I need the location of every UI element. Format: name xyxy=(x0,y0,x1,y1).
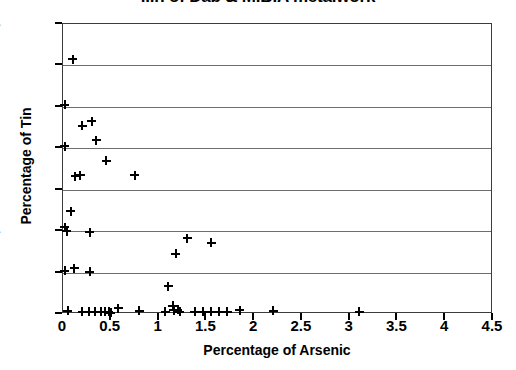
data-point xyxy=(62,227,71,236)
data-point xyxy=(183,234,192,243)
data-point xyxy=(92,136,101,145)
data-point xyxy=(269,306,278,315)
x-tick-label: 3 xyxy=(326,318,372,334)
data-point xyxy=(175,307,184,316)
x-tick-mark xyxy=(491,313,493,320)
chart-title: ...n of Dab & M.B.A metalwork xyxy=(0,0,516,7)
gridline xyxy=(63,65,491,66)
data-point xyxy=(85,228,94,237)
data-point xyxy=(60,142,69,151)
data-point xyxy=(60,100,69,109)
x-tick-mark xyxy=(443,313,445,320)
x-tick-mark xyxy=(395,313,397,320)
x-tick-mark xyxy=(157,313,159,320)
data-point xyxy=(85,267,94,276)
x-tick-label: 1 xyxy=(135,318,181,334)
gridline xyxy=(63,231,491,232)
y-tick-mark xyxy=(55,188,62,190)
data-point xyxy=(63,306,72,315)
x-tick-label: 4 xyxy=(421,318,467,334)
y-tick-mark xyxy=(55,63,62,65)
data-point xyxy=(223,307,232,316)
gridline xyxy=(63,107,491,108)
gridline xyxy=(63,273,491,274)
x-tick-label: 2.5 xyxy=(278,318,324,334)
data-point xyxy=(235,306,244,315)
data-point xyxy=(60,266,69,275)
gridline xyxy=(63,148,491,149)
data-point xyxy=(87,117,96,126)
data-point xyxy=(76,171,85,180)
x-axis-title: Percentage of Arsenic xyxy=(62,341,492,359)
data-point xyxy=(164,282,173,291)
x-tick-mark xyxy=(109,313,111,320)
data-point xyxy=(130,171,139,180)
x-tick-mark xyxy=(204,313,206,320)
data-point xyxy=(355,307,364,316)
x-tick-label: 1.5 xyxy=(182,318,228,334)
data-point xyxy=(70,264,79,273)
y-tick-mark xyxy=(55,22,62,24)
data-point xyxy=(102,156,111,165)
data-point xyxy=(66,207,75,216)
data-point xyxy=(78,121,87,130)
y-axis-title: Percentage of Tin xyxy=(18,76,34,256)
data-point xyxy=(135,306,144,315)
data-point xyxy=(114,304,123,313)
x-tick-label: 2 xyxy=(230,318,276,334)
x-tick-label: 0.5 xyxy=(87,318,133,334)
y-tick-mark xyxy=(55,312,62,314)
gridline xyxy=(63,190,491,191)
data-point xyxy=(68,55,77,64)
scatter-chart: ...n of Dab & M.B.A metalwork 0246810121… xyxy=(0,0,516,370)
x-tick-mark xyxy=(252,313,254,320)
x-tick-label: 4.5 xyxy=(469,318,515,334)
x-tick-label: 3.5 xyxy=(373,318,419,334)
data-point xyxy=(207,238,216,247)
x-tick-mark xyxy=(300,313,302,320)
x-tick-mark xyxy=(348,313,350,320)
plot-area xyxy=(62,23,492,313)
data-point xyxy=(171,249,180,258)
x-tick-label: 0 xyxy=(39,318,85,334)
